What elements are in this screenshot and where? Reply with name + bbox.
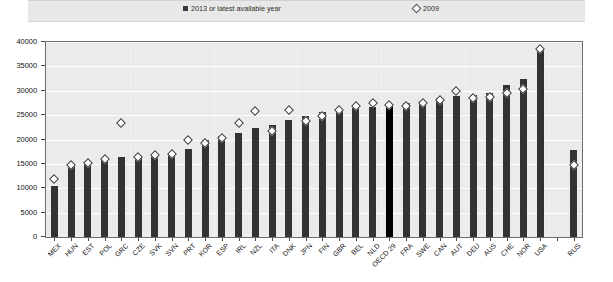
x-axis-tick-label: CAN [432, 242, 447, 257]
bar-aut [453, 96, 460, 237]
x-axis-tick-label: BEL [350, 242, 364, 256]
x-axis-tick [289, 238, 290, 241]
x-axis-tick-label: SVN [164, 242, 179, 257]
bar-aus [486, 93, 493, 237]
bar-est [84, 161, 91, 237]
y-axis-tick [41, 163, 45, 164]
x-axis-tick [557, 238, 558, 241]
x-axis-tick [406, 238, 407, 241]
x-axis-tick-label: MEX [47, 242, 63, 258]
x-axis-tick-label: ESP [215, 242, 230, 257]
x-axis-tick [306, 238, 307, 241]
marker-2009-irl [234, 118, 244, 128]
x-axis-tick [121, 238, 122, 241]
marker-2009-nzl [250, 106, 260, 116]
y-axis-tick [41, 187, 45, 188]
x-axis-tick-label: DNK [281, 242, 296, 257]
x-axis-tick-label: DEU [466, 242, 481, 257]
bar-irl [235, 133, 242, 237]
bar-svn [168, 153, 175, 237]
x-axis-tick-label: GRC [113, 242, 129, 258]
x-axis-tick [255, 238, 256, 241]
marker-2009-grc [116, 118, 126, 128]
y-axis-tick [41, 139, 45, 140]
x-axis: MEXHUNESTPOLGRCCZESVKSVNPRTKORESPIRLNZLI… [46, 238, 582, 282]
x-axis-tick [356, 238, 357, 241]
x-axis-tick [172, 238, 173, 241]
bar-hun [68, 166, 75, 237]
x-axis-tick [272, 238, 273, 241]
bar-ita [269, 125, 276, 237]
y-axis-tick-label: 40000 [16, 37, 37, 46]
bar-fra [403, 103, 410, 237]
x-axis-tick [239, 238, 240, 241]
x-axis-tick [54, 238, 55, 241]
bar-nld [369, 107, 376, 237]
y-axis-tick [41, 90, 45, 91]
legend-label-series-1: 2013 or latest available year [191, 4, 281, 13]
x-axis-tick [88, 238, 89, 241]
chart-legend: 2013 or latest available year 2009 [28, 0, 585, 22]
x-axis-tick-label: ITA [268, 242, 280, 254]
x-axis-tick [507, 238, 508, 241]
bar-swe [419, 101, 426, 238]
y-axis-tick-label: 30000 [16, 85, 37, 94]
bar-fin [319, 112, 326, 237]
x-axis-tick-label: FRA [399, 242, 414, 257]
x-axis-tick-label: JPN [299, 242, 313, 256]
x-axis-tick [222, 238, 223, 241]
x-axis-tick [188, 238, 189, 241]
y-axis: 0500010000150002000025000300003500040000 [0, 41, 42, 238]
marker-2009-prt [183, 135, 193, 145]
x-axis-tick [155, 238, 156, 241]
bar-jpn [302, 116, 309, 237]
x-axis-tick [423, 238, 424, 241]
x-axis-tick-label: USA [533, 242, 548, 257]
x-axis-tick-label: HUN [63, 242, 79, 258]
x-axis-tick [105, 238, 106, 241]
x-axis-tick-label: SVK [148, 242, 163, 257]
chart-root: 2013 or latest available year 2009 05000… [0, 0, 613, 282]
bar-grc [118, 157, 125, 237]
x-axis-tick-label: CHE [499, 242, 514, 257]
x-axis-tick [71, 238, 72, 241]
bar-bel [352, 108, 359, 237]
filled-square-icon [183, 6, 188, 11]
x-axis-tick [339, 238, 340, 241]
bar-che [503, 85, 510, 237]
bar-mex [51, 186, 58, 237]
bars-layer [46, 42, 582, 237]
y-axis-tick-label: 10000 [16, 183, 37, 192]
bar-deu [470, 95, 477, 237]
x-axis-tick-label: SWE [415, 242, 431, 258]
bar-nor [520, 79, 527, 237]
y-axis-tick-label: 0 [33, 232, 37, 241]
x-axis-tick [138, 238, 139, 241]
y-axis-tick [41, 212, 45, 213]
x-axis-tick [523, 238, 524, 241]
open-diamond-icon [412, 4, 422, 14]
bar-usa [537, 48, 544, 237]
marker-2009-dnk [284, 105, 294, 115]
y-axis-tick-label: 20000 [16, 134, 37, 143]
x-axis-tick [440, 238, 441, 241]
x-axis-tick-label: NZL [249, 242, 263, 256]
x-axis-tick [473, 238, 474, 241]
x-axis-tick-label: RUS [566, 242, 581, 257]
bar-esp [218, 136, 225, 237]
y-axis-tick-label: 35000 [16, 61, 37, 70]
x-axis-tick-label: KOR [197, 242, 213, 258]
x-axis-tick-label: AUS [483, 242, 498, 257]
x-axis-tick-label: NOR [515, 242, 531, 258]
x-axis-tick-label: IRL [234, 242, 247, 255]
y-axis-tick [41, 65, 45, 66]
y-axis-tick-label: 15000 [16, 158, 37, 167]
x-axis-tick [322, 238, 323, 241]
marker-2009-mex [49, 174, 59, 184]
bar-pol [101, 158, 108, 237]
x-axis-tick-label: GBR [331, 242, 347, 258]
bar-can [436, 98, 443, 237]
x-axis-tick [373, 238, 374, 241]
x-axis-tick [574, 238, 575, 241]
y-axis-tick [41, 41, 45, 42]
